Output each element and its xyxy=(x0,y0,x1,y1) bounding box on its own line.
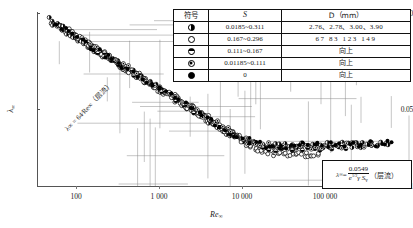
legend-row: 0.0185~0.3112.76、2.78、3.00、3.90 xyxy=(174,22,411,34)
legend-symbol-cell xyxy=(174,34,209,46)
legend-s-cell: 0 xyxy=(209,70,282,82)
legend-row: 0.01185~0.111向上 xyxy=(174,58,411,70)
legend-table: 符号 S D（mm） 0.0185~0.3112.76、2.78、3.00、3.… xyxy=(173,9,411,82)
legend-symbol-cell xyxy=(174,58,209,70)
formula-denominator: e1/2γ Sv xyxy=(348,174,369,183)
legend-d-cell: 2.76、2.78、3.00、3.90 xyxy=(282,22,411,34)
formula-numerator: 0.0549 xyxy=(348,166,369,174)
legend-header-d: D（mm） xyxy=(282,10,411,22)
legend-d-cell: 67 83 123 149 xyxy=(282,34,411,46)
formula-equals: = xyxy=(343,171,347,179)
legend-d-cell: 向上 xyxy=(282,70,411,82)
legend-d-cell: 向上 xyxy=(282,46,411,58)
formula-fraction: 0.0549 e1/2γ Sv xyxy=(348,166,369,183)
chart-container: 1.0 0.05 0.01 λ∞ 100 1 000 10 000 100 00… xyxy=(0,0,413,228)
legend-symbol-cell xyxy=(174,22,209,34)
legend-symbol-cell xyxy=(174,70,209,82)
legend-d-cell: 向上 xyxy=(282,58,411,70)
legend-header-s: S xyxy=(209,10,282,22)
bottom-half-circle-icon xyxy=(188,48,195,55)
legend-row: 0向上 xyxy=(174,70,411,82)
legend-s-cell: 0.0185~0.311 xyxy=(209,22,282,34)
legend-s-cell: 0.01185~0.111 xyxy=(209,58,282,70)
filled-circle-icon xyxy=(188,72,195,79)
laminar-formula-box: λ∞ = 0.0549 e1/2γ Sv （层流） xyxy=(322,160,412,189)
legend-row: 0.167~0.29667 83 123 149 xyxy=(174,34,411,46)
legend-header-row: 符号 S D（mm） xyxy=(174,10,411,22)
legend-s-cell: 0.111~0.167 xyxy=(209,46,282,58)
dot-circle-icon xyxy=(188,60,195,67)
formula-suffix: （层流） xyxy=(370,170,398,180)
half-filled-circle-icon xyxy=(188,24,195,31)
formula-den-rest-sub: v xyxy=(365,178,368,183)
legend-s-cell: 0.167~0.296 xyxy=(209,34,282,46)
legend-header-symbol: 符号 xyxy=(174,10,209,22)
legend-row: 0.111~0.167向上 xyxy=(174,46,411,58)
legend-symbol-cell xyxy=(174,46,209,58)
open-circle-icon xyxy=(188,36,195,43)
